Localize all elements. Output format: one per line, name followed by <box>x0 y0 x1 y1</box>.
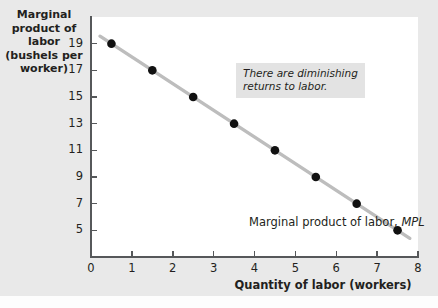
series-curve-label: Marginal product of labor, MPL <box>249 215 425 229</box>
data-point-marker <box>148 66 157 75</box>
chart-figure: Marginal product of labor (bushels per w… <box>0 0 438 308</box>
series-curve-label-text: Marginal product of labor, <box>249 215 401 229</box>
data-point-marker <box>352 199 361 208</box>
series-plot <box>0 0 438 308</box>
data-point-marker <box>230 119 239 128</box>
x-axis-title: Quantity of labor (workers) <box>218 278 428 292</box>
figure-bottom-strip <box>0 296 438 308</box>
data-point-marker <box>312 173 321 182</box>
data-point-marker <box>271 146 280 155</box>
diminishing-returns-note: There are diminishing returns to labor. <box>236 63 365 98</box>
data-point-marker <box>107 39 116 48</box>
data-point-marker <box>189 93 198 102</box>
series-curve-label-emphasis: MPL <box>401 215 424 229</box>
